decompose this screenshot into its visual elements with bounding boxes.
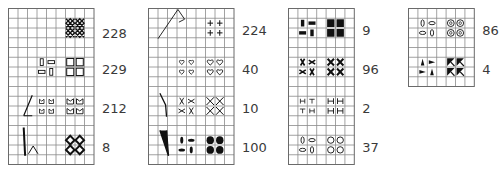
motif-bar-bracket-icon [24, 127, 38, 155]
stitch-chart-grid [409, 9, 475, 87]
symbol-code-label: 96 [362, 63, 379, 77]
motif-angle-line-icon [24, 95, 33, 115]
symbol-code-label: 37 [362, 141, 379, 155]
symbol-code-label: 8 [102, 141, 110, 155]
symbol-code-label: 4 [482, 63, 490, 77]
symbol-code-label: 40 [242, 63, 259, 77]
motif-v-wedge-icon [160, 130, 169, 155]
symbol-code-label: 228 [102, 27, 127, 41]
stitch-chart-grid [9, 9, 95, 165]
motif-slash-line-icon [160, 93, 167, 116]
symbol-code-label: 86 [482, 24, 499, 38]
symbol-code-label: 212 [102, 102, 127, 116]
symbol-code-label: 229 [102, 63, 127, 77]
symbol-code-label: 9 [362, 24, 370, 38]
stitch-chart-grid [289, 9, 355, 165]
symbol-code-label: 100 [242, 141, 267, 155]
symbol-code-label: 2 [362, 102, 370, 116]
symbol-code-label: 10 [242, 102, 259, 116]
symbol-code-label: 224 [242, 24, 267, 38]
stitch-chart-grid [149, 9, 235, 165]
motif-diagonal-flag-icon [158, 9, 185, 38]
